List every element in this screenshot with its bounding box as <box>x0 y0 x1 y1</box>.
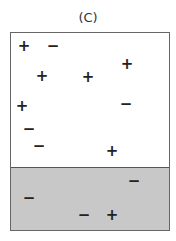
positive-charge-icon: + <box>82 70 95 85</box>
positive-charge-icon: + <box>18 39 31 54</box>
negative-charge-icon: − <box>128 174 141 189</box>
positive-charge-icon: + <box>106 208 119 223</box>
positive-charge-icon: + <box>36 69 49 84</box>
panel-title: (C) <box>0 10 176 25</box>
negative-charge-icon: − <box>33 139 46 154</box>
positive-charge-icon: + <box>121 57 134 72</box>
positive-charge-icon: + <box>16 99 29 114</box>
negative-charge-icon: − <box>78 208 91 223</box>
negative-charge-icon: − <box>120 97 133 112</box>
negative-charge-icon: − <box>47 39 60 54</box>
negative-charge-icon: − <box>23 122 36 137</box>
positive-charge-icon: + <box>106 144 119 159</box>
negative-charge-icon: − <box>23 191 36 206</box>
